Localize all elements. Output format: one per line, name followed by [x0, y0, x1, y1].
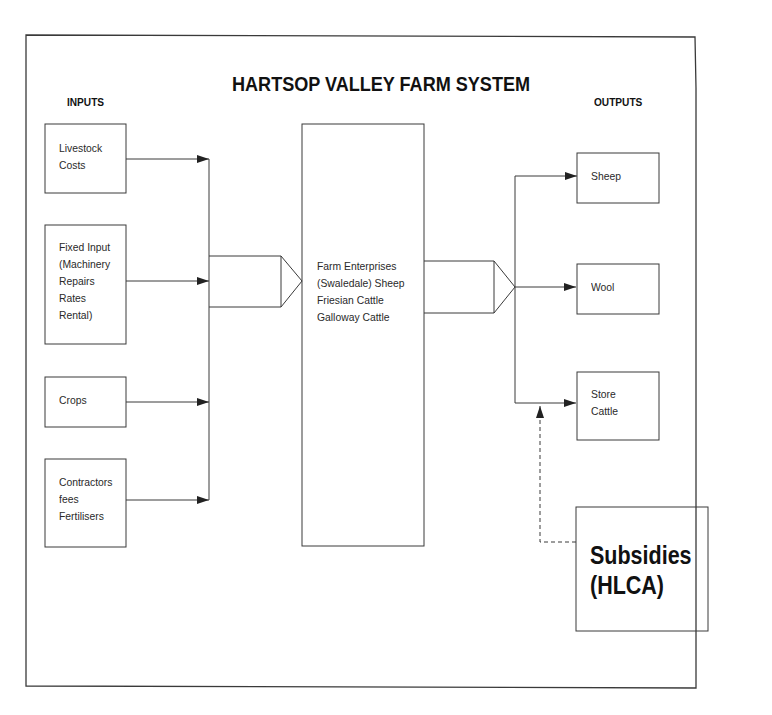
subsidies-dashed-connector — [540, 406, 576, 542]
text-line: Sheep — [591, 168, 621, 185]
outputs-heading: OUTPUTS — [594, 96, 642, 108]
text-line: Costs — [59, 157, 102, 174]
text-line: (HLCA) — [590, 570, 692, 600]
input-label-fixed-input: Fixed Input (Machinery Repairs Rates Ren… — [59, 239, 110, 324]
output-label-wool: Wool — [591, 279, 614, 296]
output-funnel-arrow — [424, 261, 515, 313]
text-line: Store — [591, 386, 618, 403]
text-line: Rental) — [59, 307, 110, 324]
text-line: Repairs — [59, 273, 110, 290]
input-label-livestock-costs: Livestock Costs — [59, 140, 102, 174]
text-line: Subsidies — [590, 540, 692, 570]
text-line: Cattle — [591, 403, 618, 420]
diagram-title: HARTSOP VALLEY FARM SYSTEM — [232, 72, 530, 96]
text-line: Fertilisers — [59, 508, 112, 525]
text-line: (Swaledale) Sheep — [317, 275, 404, 292]
text-line: Galloway Cattle — [317, 309, 404, 326]
output-label-store-cattle: Store Cattle — [591, 386, 618, 420]
text-line: Fixed Input — [59, 239, 110, 256]
input-funnel-arrow — [209, 256, 302, 307]
output-box-wool — [577, 264, 659, 314]
process-box — [302, 124, 424, 546]
text-line: Farm Enterprises — [317, 258, 404, 275]
text-line: Friesian Cattle — [317, 292, 404, 309]
text-line: Crops — [59, 392, 87, 409]
subsidies-label: Subsidies (HLCA) — [590, 540, 692, 600]
text-line: Livestock — [59, 140, 102, 157]
text-line: Wool — [591, 279, 614, 296]
process-label: Farm Enterprises (Swaledale) Sheep Fries… — [317, 258, 404, 326]
diagram-canvas — [0, 0, 772, 715]
text-line: (Machinery — [59, 256, 110, 273]
text-line: Rates — [59, 290, 110, 307]
text-line: fees — [59, 491, 112, 508]
text-line: Contractors — [59, 474, 112, 491]
input-label-contractors: Contractors fees Fertilisers — [59, 474, 112, 525]
output-label-sheep: Sheep — [591, 168, 621, 185]
input-label-crops: Crops — [59, 392, 87, 409]
inputs-heading: INPUTS — [67, 96, 104, 108]
